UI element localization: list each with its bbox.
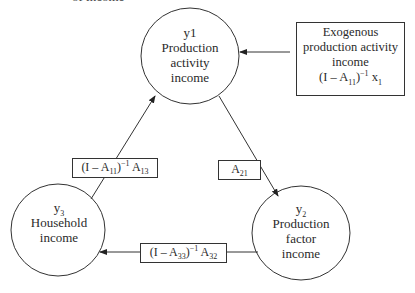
node-y1-label: y1 Production activity income [150, 25, 230, 85]
node-y2-line2: factor [256, 231, 346, 246]
exogenous-line3: income [297, 55, 404, 70]
edge-y3-y1-var: A [130, 160, 141, 174]
edge-y1-y2-sub: 21 [240, 169, 248, 178]
edge-y2-y3-sup: −1 [190, 244, 199, 253]
edge-y3-y1-sup: −1 [121, 159, 130, 168]
node-y1-line3: income [150, 70, 230, 85]
edge-y3-y1-sub2: 13 [141, 167, 149, 176]
edge-y3-y1-open: (I – A [81, 160, 109, 174]
exogenous-formula-sub1: 11 [348, 78, 356, 87]
edge-label-y2-to-y3: (I – A33)−1 A32 [140, 243, 227, 263]
exogenous-formula-sub2: 1 [378, 78, 382, 87]
exogenous-formula-var: x [369, 70, 378, 84]
edge-label-y1-to-y2: A21 [218, 160, 261, 180]
node-y3-line2: income [14, 230, 104, 245]
edge-y2-y3-sub1: 33 [178, 252, 186, 261]
edge-y2-y3-var: A [198, 245, 209, 259]
exogenous-formula: (I – A11)−1 x1 [297, 70, 404, 85]
node-y2-line1: Production [256, 216, 346, 231]
exogenous-line1: Exogenous [297, 25, 404, 40]
node-y3-line1: Household [14, 215, 104, 230]
arrow-y1-to-y2 [219, 96, 278, 196]
node-y1-line2: activity [150, 55, 230, 70]
node-y3-symbol: y3 [14, 200, 104, 215]
node-y3-label: y3 Household income [14, 200, 104, 245]
exogenous-formula-open: (I – A [319, 70, 348, 84]
edge-y3-y1-sub1: 11 [109, 167, 117, 176]
edge-y2-y3-sub2: 32 [209, 252, 217, 261]
node-y2-label: y2 Production factor income [256, 201, 346, 261]
edge-y2-y3-open: (I – A [150, 245, 178, 259]
arrow-y3-to-y1 [91, 96, 155, 199]
node-y2-symbol: y2 [256, 201, 346, 216]
node-y1-symbol: y1 [150, 25, 230, 40]
exogenous-income-box: Exogenous production activity income (I … [296, 22, 405, 96]
edge-label-y3-to-y1: (I – A11)−1 A13 [72, 158, 158, 178]
exogenous-line2: production activity [297, 40, 404, 55]
exogenous-formula-sup: −1 [360, 69, 369, 78]
node-y1-line1: Production [150, 40, 230, 55]
node-y2-line3: income [256, 246, 346, 261]
edge-y1-y2-var: A [231, 162, 240, 176]
